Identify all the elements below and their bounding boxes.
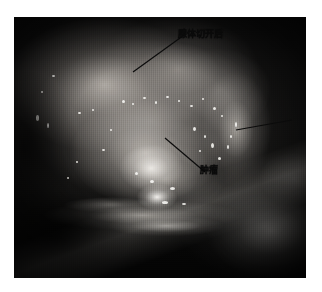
annotation-label-tumor: 肿瘤 (200, 165, 218, 175)
annotation-overlay (14, 17, 306, 278)
leader-line-tissue (133, 38, 180, 72)
leader-line-tumor (165, 138, 205, 172)
leader-line-right-flap (236, 120, 292, 130)
surgical-photograph: 腺体切开后 肿瘤 (14, 17, 306, 278)
page-root: 腺体切开后 肿瘤 (0, 0, 322, 292)
annotation-label-tissue: 腺体切开后 (178, 29, 223, 39)
